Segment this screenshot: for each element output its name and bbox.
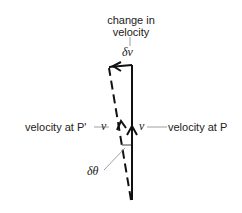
delta-theta-symbol: δθ xyxy=(87,165,98,177)
v-symbol-left: v xyxy=(101,120,106,132)
title-line-2: velocity xyxy=(106,26,156,38)
delta-v-symbol: δv xyxy=(122,46,133,58)
change-in-velocity-label: change in velocity xyxy=(106,14,156,38)
v-symbol-right: v xyxy=(139,120,144,132)
title-line-1: change in xyxy=(106,14,156,26)
angle-leader-line xyxy=(104,148,125,170)
velocity-at-p-label: velocity at P xyxy=(168,121,227,133)
velocity-at-p-prime-label: velocity at P' xyxy=(25,121,86,133)
